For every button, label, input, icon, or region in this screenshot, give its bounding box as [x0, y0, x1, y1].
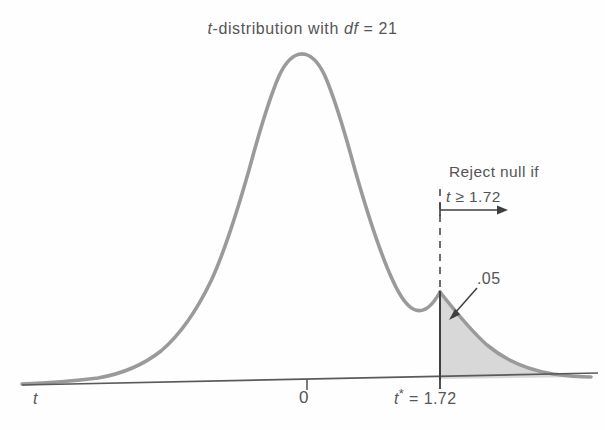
alpha-callout-arrow-shaft [455, 288, 477, 313]
tail-area-label: .05 [477, 270, 500, 288]
reject-null-label-line1: Reject null if [449, 163, 539, 181]
figure-title: t-distribution with df = 21 [0, 20, 605, 38]
t-distribution-figure: t-distribution with df = 21 Reject null … [0, 0, 605, 430]
x-axis-variable-label: t [33, 390, 38, 408]
title-df-value: = 21 [359, 20, 398, 37]
x-axis-critical-label: t* = 1.72 [394, 386, 456, 408]
rejection-arrow-head [497, 206, 508, 215]
x-axis-variable-text: t [33, 390, 38, 407]
title-middle-text: -distribution with [213, 20, 344, 37]
curve-right-branch [302, 54, 440, 311]
x-axis-zero-label: 0 [299, 388, 309, 408]
distribution-plot [0, 0, 605, 430]
reject-condition-value: ≥ 1.72 [451, 188, 501, 205]
distribution-curve [22, 54, 440, 384]
title-df-symbol: df [344, 20, 359, 37]
curve-left-branch [22, 54, 302, 384]
reject-null-label-line2: t ≥ 1.72 [446, 188, 501, 206]
critical-value-text: = 1.72 [404, 390, 456, 407]
